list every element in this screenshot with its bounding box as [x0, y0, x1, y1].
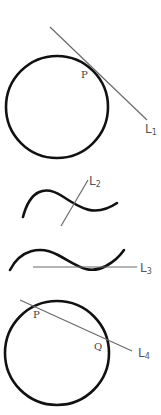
- line-l1: [50, 27, 147, 120]
- line-l1-label: L1: [145, 122, 157, 137]
- figure-tangent-circle: P L1: [6, 27, 157, 158]
- figure-crossing-curve: L2: [23, 174, 117, 226]
- point-q-label: Q: [94, 341, 102, 352]
- diagram-canvas: P L1 L2 L3 P Q L4: [0, 0, 161, 415]
- point-p-label-2: P: [33, 309, 40, 320]
- figure-secant-circle: P Q L4: [5, 300, 150, 405]
- line-l2: [61, 180, 88, 226]
- wave-curve-1: [23, 191, 117, 217]
- point-p-label: P: [81, 69, 88, 80]
- figure-tangent-curve: L3: [10, 250, 152, 276]
- line-l4-label: L4: [138, 346, 150, 361]
- circle-1: [6, 56, 108, 158]
- line-l4: [20, 300, 132, 351]
- line-l3-label: L3: [140, 261, 152, 276]
- line-l2-label: L2: [89, 174, 101, 189]
